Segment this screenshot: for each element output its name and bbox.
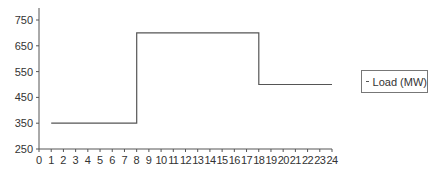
x-tick-label: 6 — [109, 154, 115, 166]
legend-line-swatch — [366, 81, 369, 82]
x-tick-label: 10 — [156, 154, 168, 166]
y-tick-label: 650 — [15, 40, 33, 52]
load-series-line — [51, 33, 332, 123]
legend-label: Load (MW) — [373, 76, 427, 88]
x-tick-label: 14 — [204, 154, 216, 166]
legend: Load (MW) — [361, 70, 428, 93]
x-tick-label: 7 — [121, 154, 127, 166]
x-tick-label: 18 — [253, 154, 265, 166]
x-tick-label: 17 — [241, 154, 253, 166]
x-tick-label: 21 — [290, 154, 302, 166]
x-tick-label: 11 — [168, 154, 179, 166]
x-tick-label: 22 — [302, 154, 314, 166]
x-tick-label: 15 — [217, 154, 229, 166]
y-tick-label: 450 — [15, 91, 33, 103]
x-tick-label: 3 — [73, 154, 79, 166]
x-tick-label: 20 — [278, 154, 290, 166]
x-tick-label: 1 — [48, 154, 54, 166]
x-tick-label: 24 — [326, 154, 338, 166]
x-tick-label: 8 — [134, 154, 140, 166]
x-tick-label: 4 — [85, 154, 91, 166]
x-tick-label: 23 — [314, 154, 326, 166]
y-tick-label: 250 — [15, 143, 33, 155]
x-tick-label: 5 — [97, 154, 103, 166]
y-tick-label: 550 — [15, 66, 33, 78]
x-tick-label: 16 — [229, 154, 241, 166]
x-tick-label: 12 — [180, 154, 192, 166]
x-tick-label: 2 — [60, 154, 66, 166]
y-tick-label: 750 — [15, 14, 33, 26]
x-tick-label: 0 — [36, 154, 42, 166]
y-tick-label: 350 — [15, 117, 33, 129]
x-tick-label: 19 — [265, 154, 277, 166]
x-tick-label: 13 — [192, 154, 204, 166]
x-tick-label: 9 — [146, 154, 152, 166]
